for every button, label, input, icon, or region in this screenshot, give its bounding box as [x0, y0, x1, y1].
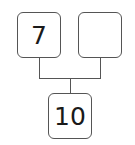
part-box-left[interactable]: 7 [17, 12, 61, 58]
whole-value: 10 [54, 102, 86, 131]
connector-center-vertical [70, 78, 71, 94]
connector-right-vertical [100, 58, 101, 78]
connector-left-vertical [39, 58, 40, 78]
whole-box[interactable]: 10 [48, 93, 92, 139]
part-box-right[interactable] [78, 12, 122, 58]
part-value-left: 7 [31, 21, 47, 50]
